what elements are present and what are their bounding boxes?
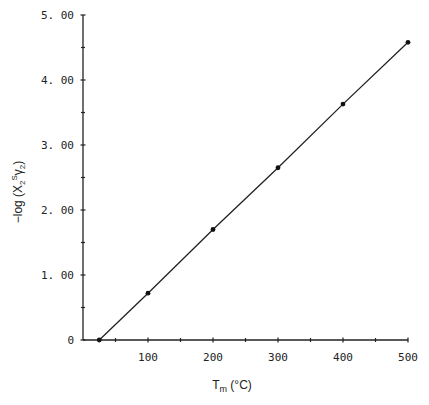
y-tick-label: 5. 00 xyxy=(41,9,74,22)
ticks xyxy=(81,15,409,343)
x-tick-label: 400 xyxy=(333,351,353,364)
y-label-prefix: −log (X xyxy=(11,185,25,223)
x-label-sub: m xyxy=(220,384,228,394)
x-tick-label: 100 xyxy=(138,351,158,364)
x-tick-label: 200 xyxy=(203,351,223,364)
data-point xyxy=(276,165,281,170)
data-series xyxy=(97,40,411,343)
tick-labels: 10020030040050001. 002. 003. 004. 005. 0… xyxy=(41,9,418,364)
y-tick-label: 2. 00 xyxy=(41,204,74,217)
x-tick-label: 300 xyxy=(268,351,288,364)
chart: 10020030040050001. 002. 003. 004. 005. 0… xyxy=(0,0,429,405)
series-line xyxy=(99,42,408,340)
data-point xyxy=(341,102,346,107)
x-tick-label: 500 xyxy=(398,351,418,364)
data-point xyxy=(211,227,216,232)
y-tick-label: 3. 00 xyxy=(41,139,74,152)
y-tick-label: 0 xyxy=(67,334,74,347)
data-point xyxy=(146,291,151,296)
y-tick-label: 4. 00 xyxy=(41,74,74,87)
axes xyxy=(83,15,408,340)
data-point xyxy=(406,40,411,45)
y-axis-label: −log (X2Sγ2) xyxy=(10,161,27,224)
y-tick-label: 1. 00 xyxy=(41,269,74,282)
y-label-suffix: ) xyxy=(11,161,25,165)
x-label-unit: (°C) xyxy=(227,378,252,392)
y-label-sub: 2 xyxy=(18,180,27,185)
x-axis-label: Tm (°C) xyxy=(212,378,252,394)
data-point xyxy=(97,338,102,343)
